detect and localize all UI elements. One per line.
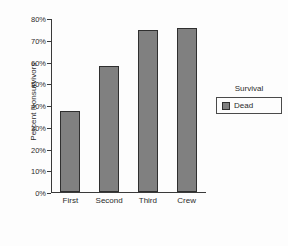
legend-title: Survival — [216, 84, 282, 93]
legend: Survival Dead — [216, 84, 282, 114]
y-axis-tick-mark — [47, 171, 51, 172]
y-axis-tick-label: 70% — [20, 36, 46, 45]
y-axis-tick-label: 0% — [20, 189, 46, 198]
bar-slot — [90, 19, 129, 192]
x-axis-tick-labels: FirstSecondThirdCrew — [51, 196, 206, 212]
legend-label-dead: Dead — [234, 101, 253, 110]
bar-second — [99, 66, 119, 192]
y-axis-tick-label: 20% — [20, 145, 46, 154]
y-axis-tick-mark — [47, 106, 51, 107]
y-axis-tick-mark — [47, 19, 51, 20]
y-axis-tick-labels: 0%10%20%30%40%50%60%70%80% — [20, 0, 46, 246]
y-axis-tick-label: 10% — [20, 167, 46, 176]
y-axis-tick-mark — [47, 84, 51, 85]
bar-series-dead — [51, 19, 206, 192]
legend-box: Dead — [216, 97, 282, 114]
bar-first — [60, 111, 80, 192]
y-axis-tick-mark — [47, 150, 51, 151]
x-axis-line — [51, 192, 206, 193]
y-axis-tick-mark — [47, 41, 51, 42]
y-axis-tick-mark — [47, 193, 51, 194]
bar-crew — [177, 28, 197, 192]
bar-slot — [129, 19, 168, 192]
y-axis-tick-label: 60% — [20, 58, 46, 67]
y-axis-tick-label: 80% — [20, 15, 46, 24]
y-axis-tick-label: 30% — [20, 123, 46, 132]
y-axis-tick-label: 40% — [20, 102, 46, 111]
bar-slot — [51, 19, 90, 192]
bar-chart-figure: Percent Nonsurvivors 0%10%20%30%40%50%60… — [0, 0, 288, 246]
bar-slot — [167, 19, 206, 192]
plot-area — [51, 19, 206, 193]
y-axis-tick-mark — [47, 128, 51, 129]
legend-swatch-dead — [222, 102, 230, 110]
y-axis-tick-label: 50% — [20, 80, 46, 89]
x-axis-tick-label: Crew — [162, 196, 212, 205]
bar-third — [138, 30, 158, 192]
y-axis-tick-mark — [47, 63, 51, 64]
